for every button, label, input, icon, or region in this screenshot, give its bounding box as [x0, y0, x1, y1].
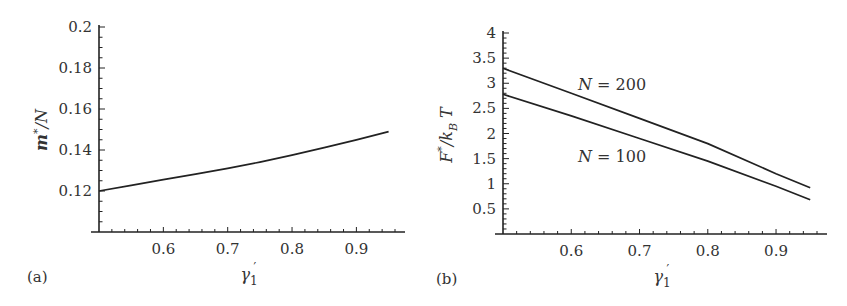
- y-tick-label: 4: [486, 24, 496, 42]
- figure: 0.60.70.80.90.120.140.160.180.2γ1′(a)m*/…: [0, 0, 847, 306]
- y-tick-label: 0.12: [59, 182, 92, 200]
- x-tick-label: 0.9: [344, 240, 368, 258]
- y-tick-label: 2.5: [472, 99, 496, 117]
- y-axis-title: m*/N: [31, 108, 51, 151]
- x-axis-title: γ1′: [240, 261, 257, 288]
- y-tick-label: 3: [486, 74, 496, 92]
- y-tick-label: 0.16: [59, 100, 92, 118]
- y-tick-label: 0.14: [59, 141, 92, 159]
- panel-b-chart: 0.60.70.80.90.511.522.533.54γ1′(b)F*/kB …: [435, 24, 827, 290]
- x-tick-label: 0.7: [216, 240, 240, 258]
- x-tick-label: 0.6: [151, 240, 175, 258]
- annotation-n-200: N = 200: [577, 75, 646, 94]
- x-tick-label: 0.7: [628, 242, 652, 260]
- y-tick-label: 3.5: [472, 49, 496, 67]
- panel-label: (b): [436, 270, 457, 288]
- x-tick-label: 0.6: [559, 242, 583, 260]
- y-tick-label: 0.5: [472, 200, 496, 218]
- y-tick-label: 0.2: [68, 18, 92, 36]
- panel-label: (a): [27, 268, 48, 286]
- series-line-m-n: [99, 132, 389, 191]
- x-axis-title: γ1′: [653, 263, 670, 290]
- series-line-n-100: [503, 94, 810, 200]
- y-tick-label: 2: [486, 125, 496, 143]
- y-tick-label: 1: [486, 175, 496, 193]
- series-line-n-200: [503, 68, 810, 188]
- y-tick-label: 1.5: [472, 150, 496, 168]
- panel-a-chart: 0.60.70.80.90.120.140.160.180.2γ1′(a)m*/…: [27, 18, 405, 288]
- x-tick-label: 0.9: [764, 242, 788, 260]
- annotation-n-100: N = 100: [577, 147, 646, 166]
- x-tick-label: 0.8: [696, 242, 720, 260]
- y-axis-title: F*/kB T: [435, 106, 460, 164]
- x-tick-label: 0.8: [280, 240, 304, 258]
- y-tick-label: 0.18: [59, 59, 92, 77]
